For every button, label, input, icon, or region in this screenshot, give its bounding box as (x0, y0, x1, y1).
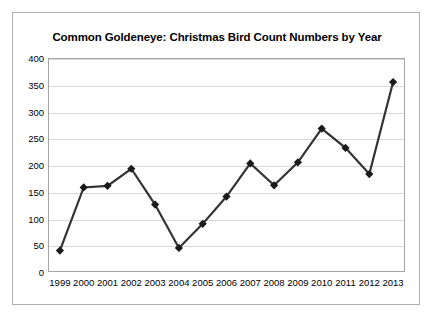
x-tick-label: 2000 (73, 277, 94, 288)
x-tick-label: 2006 (216, 277, 237, 288)
x-tick-label: 2001 (97, 277, 118, 288)
y-tick-label: 350 (14, 79, 44, 90)
series-markers (56, 78, 397, 255)
y-tick-label: 200 (14, 160, 44, 171)
x-tick-label: 2007 (240, 277, 261, 288)
x-tick-label: 1999 (49, 277, 70, 288)
y-tick-label: 300 (14, 106, 44, 117)
x-tick-label: 2002 (121, 277, 142, 288)
chart-title: Common Goldeneye: Christmas Bird Count N… (13, 31, 421, 43)
data-point-marker (389, 78, 397, 86)
x-tick-label: 2011 (335, 277, 355, 288)
y-axis: 050100150200250300350400 (13, 58, 44, 272)
y-tick-label: 250 (14, 133, 44, 144)
x-tick-label: 2008 (264, 277, 285, 288)
chart-figure: Common Goldeneye: Christmas Bird Count N… (12, 12, 420, 305)
x-tick-label: 2010 (311, 277, 332, 288)
series-polyline (60, 82, 393, 251)
y-tick-label: 150 (14, 186, 44, 197)
x-tick-label: 2003 (145, 277, 166, 288)
y-tick-label: 400 (14, 53, 44, 64)
x-axis: 1999200020012002200320042005200620072008… (48, 277, 405, 293)
data-point-marker (56, 247, 64, 255)
data-point-marker (80, 183, 88, 191)
x-tick-label: 2012 (359, 277, 380, 288)
data-series-line (48, 58, 405, 272)
x-tick-label: 2013 (383, 277, 404, 288)
y-tick-label: 100 (14, 213, 44, 224)
x-tick-label: 2004 (168, 277, 189, 288)
y-tick-label: 0 (14, 267, 44, 278)
x-tick-label: 2005 (192, 277, 213, 288)
y-tick-label: 50 (14, 240, 44, 251)
x-tick-label: 2009 (287, 277, 308, 288)
